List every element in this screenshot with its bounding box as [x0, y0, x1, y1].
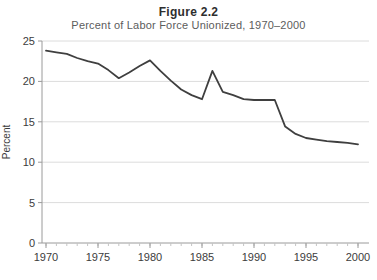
y-tick-label-25: 25: [23, 35, 35, 47]
x-tick-label-1980: 1980: [138, 251, 162, 263]
y-axis-title: Percent: [1, 125, 12, 160]
y-tick-label-5: 5: [29, 197, 35, 209]
figure-2-2: Figure 2.2 Percent of Labor Force Unioni…: [0, 0, 377, 280]
y-tick-label-20: 20: [23, 75, 35, 87]
y-tick-label-10: 10: [23, 156, 35, 168]
x-tick-label-1985: 1985: [190, 251, 214, 263]
y-tick-label-0: 0: [29, 237, 35, 249]
x-tick-label-1990: 1990: [242, 251, 266, 263]
x-tick-label-1995: 1995: [294, 251, 318, 263]
data-line-percent-unionized: [46, 51, 358, 145]
y-tick-label-15: 15: [23, 116, 35, 128]
x-tick-label-2000: 2000: [346, 251, 370, 263]
x-tick-label-1975: 1975: [86, 251, 110, 263]
x-tick-label-1970: 1970: [34, 251, 58, 263]
union-density-line-chart: 05101520251970197519801985199019952000Pe…: [0, 0, 377, 280]
